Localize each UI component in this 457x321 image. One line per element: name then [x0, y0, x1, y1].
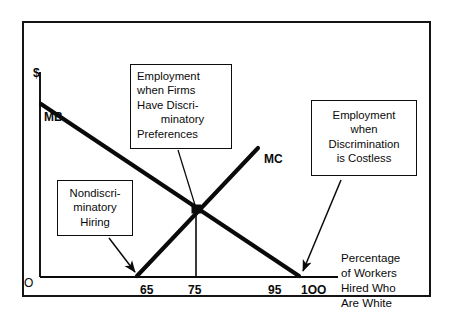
mc-curve-label: MC	[264, 152, 283, 166]
arrow-nondiscriminatory	[109, 238, 135, 272]
y-axis-label: $	[33, 66, 40, 80]
callout-firms-line-5: Preferences	[137, 127, 228, 141]
x-tick-75: 75	[188, 283, 201, 297]
x-tick-95: 95	[268, 283, 281, 297]
callout-nondiscrim-line-3: Hiring	[61, 215, 129, 229]
callout-costless-line-3: Discrimination	[315, 137, 413, 151]
x-axis-title: Percentage of Workers Hired Who Are Whit…	[341, 250, 400, 310]
x-tick-100: 1OO	[301, 283, 326, 297]
callout-nondiscrim-line-2: minatory	[61, 200, 129, 214]
callout-nondiscrim-line-1: Nondiscri-	[61, 186, 129, 200]
callout-firms-line-4: minatory	[137, 112, 228, 126]
mb-curve-label: MB	[44, 110, 63, 124]
callout-nondiscriminatory-hiring: Nondiscri- minatory Hiring	[57, 180, 133, 236]
arrow-costless	[303, 180, 341, 271]
callout-discrimination-costless: Employment when Discrimination is Costle…	[311, 100, 417, 176]
x-axis-title-line-1: Percentage	[341, 250, 400, 265]
equilibrium-point-marker	[192, 205, 202, 214]
callout-costless-line-4: is Costless	[315, 151, 413, 165]
x-tick-65: 65	[140, 283, 153, 297]
x-axis-title-line-4: Are White	[341, 295, 400, 310]
callout-firms-line-2: when Firms	[137, 83, 228, 97]
callout-firms-line-1: Employment	[137, 69, 228, 83]
x-axis-title-line-2: of Workers	[341, 265, 400, 280]
callout-costless-line-1: Employment	[315, 108, 413, 122]
callout-firms-discriminatory: Employment when Firms Have Discri- minat…	[130, 64, 232, 149]
callout-costless-line-2: when	[315, 122, 413, 136]
origin-label: O	[24, 276, 33, 290]
callout-firms-line-3: Have Discri-	[137, 98, 228, 112]
x-axis-title-line-3: Hired Who	[341, 280, 400, 295]
figure-container: $ O MB MC 65 75 95 1OO Percentage of Wor…	[0, 0, 457, 321]
